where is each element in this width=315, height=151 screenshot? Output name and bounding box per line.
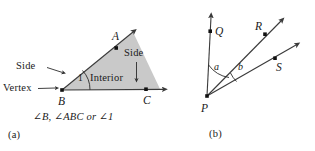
sublabel-a: (a)	[8, 130, 20, 141]
label-angle-b: b	[238, 62, 243, 72]
point-dot-S	[273, 56, 277, 60]
point-dot-C	[144, 87, 148, 91]
label-side-left: Side	[16, 61, 35, 72]
label-point-P: P	[201, 103, 208, 115]
ray-PS	[207, 45, 296, 96]
label-point-Q: Q	[215, 26, 224, 38]
sublabel-b: (b)	[209, 129, 222, 140]
ray-BC	[62, 89, 163, 90]
label-point-A: A	[112, 31, 119, 43]
leader-vertex	[38, 88, 56, 89]
label-point-B: B	[58, 96, 65, 108]
label-side-right: Side	[124, 48, 143, 59]
geometry-figure: Side Vertex Side Interior 1 A B C ∠B, ∠A…	[0, 0, 315, 151]
caption-angle-names: ∠B, ∠ABC or ∠1	[33, 112, 114, 123]
point-dot-R	[263, 32, 267, 36]
ray-PQ	[207, 17, 211, 96]
point-dot-A	[114, 46, 118, 50]
label-point-S: S	[276, 62, 282, 74]
point-dot-Q	[208, 29, 212, 33]
point-dot-P	[205, 94, 209, 98]
leader-side-left	[47, 68, 63, 73]
label-interior: Interior	[90, 73, 123, 84]
point-dot-B	[60, 88, 64, 92]
label-point-R: R	[255, 21, 262, 33]
label-angle-a: a	[214, 62, 219, 72]
label-vertex: Vertex	[3, 83, 32, 94]
figure-canvas	[0, 0, 315, 151]
label-angle-1: 1	[78, 74, 83, 84]
label-point-C: C	[143, 95, 151, 107]
